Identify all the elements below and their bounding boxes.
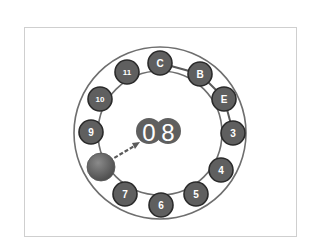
node-5: 5	[184, 182, 208, 206]
svg-text:7: 7	[122, 189, 128, 200]
svg-text:5: 5	[193, 189, 199, 200]
center-digit-0: 0	[142, 119, 155, 146]
node-c: C	[148, 51, 172, 75]
node-e: E	[212, 87, 236, 111]
svg-text:9: 9	[88, 127, 94, 138]
node-3: 3	[221, 121, 245, 145]
svg-text:B: B	[196, 69, 203, 80]
svg-text:3: 3	[230, 128, 236, 139]
node-9: 9	[79, 120, 103, 144]
node-7: 7	[113, 182, 137, 206]
center-digit-1: 8	[161, 119, 174, 146]
node-4: 4	[209, 158, 233, 182]
node-11: 11	[115, 60, 139, 84]
svg-text:E: E	[221, 94, 228, 105]
svg-text:11: 11	[123, 68, 132, 77]
svg-text:6: 6	[158, 200, 164, 211]
svg-text:10: 10	[96, 95, 105, 104]
node-6: 6	[149, 193, 173, 217]
node-b: B	[188, 62, 212, 86]
svg-text:C: C	[156, 58, 163, 69]
dial-diagram: 0 8 C B E 3 4 5 6 7 9 10 11	[0, 0, 319, 247]
svg-text:4: 4	[218, 165, 224, 176]
marker-ball	[87, 153, 115, 181]
node-10: 10	[88, 87, 112, 111]
